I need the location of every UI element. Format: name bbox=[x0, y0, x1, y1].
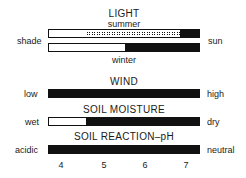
light-title: LIGHT bbox=[48, 8, 200, 19]
scale-tick-7: 7 bbox=[180, 160, 192, 170]
soil-ph-title: SOIL REACTION–pH bbox=[48, 131, 200, 142]
moisture-wet-segment bbox=[49, 118, 86, 125]
light-summer-bar bbox=[48, 29, 200, 38]
summer-partial-segment bbox=[86, 30, 180, 37]
wind-bar bbox=[48, 89, 200, 98]
wind-left-label: low bbox=[24, 89, 38, 99]
light-winter-bar bbox=[48, 43, 200, 52]
winter-shade-segment bbox=[49, 44, 125, 51]
soil-ph-bar bbox=[48, 145, 200, 154]
scale-tick-5: 5 bbox=[98, 160, 110, 170]
soil-moisture-title: SOIL MOISTURE bbox=[48, 104, 200, 115]
scale-tick-6: 6 bbox=[139, 160, 151, 170]
light-summer-label: summer bbox=[48, 19, 200, 29]
soil-moisture-left-label: wet bbox=[25, 117, 39, 127]
light-left-label: shade bbox=[17, 36, 42, 46]
light-right-label: sun bbox=[208, 36, 223, 46]
wind-right-label: high bbox=[207, 89, 224, 99]
soil-ph-right-label: neutral bbox=[207, 145, 235, 155]
wind-title: WIND bbox=[48, 76, 200, 87]
light-winter-label: winter bbox=[48, 55, 200, 65]
soil-moisture-bar bbox=[48, 117, 200, 126]
summer-shade-segment bbox=[49, 30, 86, 37]
soil-ph-left-label: acidic bbox=[15, 145, 38, 155]
soil-moisture-right-label: dry bbox=[207, 117, 220, 127]
scale-tick-4: 4 bbox=[55, 160, 67, 170]
